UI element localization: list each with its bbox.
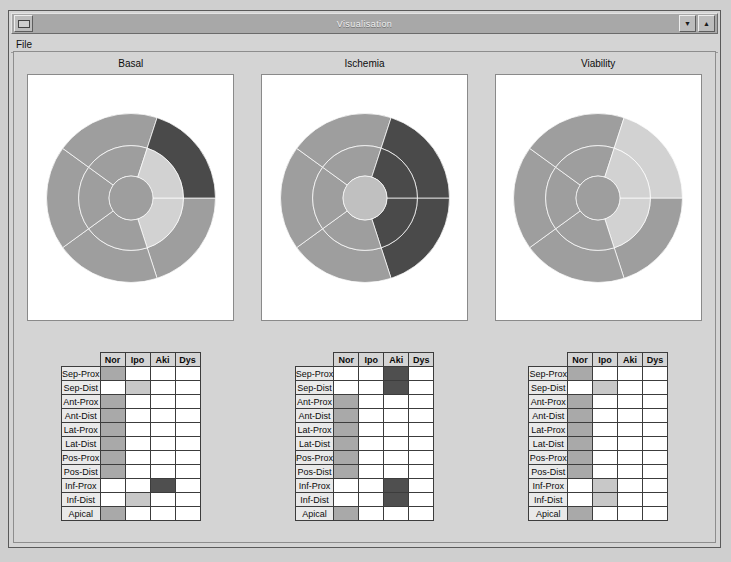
cell-ant-dist-nor[interactable] bbox=[100, 409, 125, 423]
cell-inf-dist-nor[interactable] bbox=[567, 493, 592, 507]
cell-inf-prox-aki[interactable] bbox=[617, 479, 642, 493]
cell-inf-dist-dys[interactable] bbox=[409, 493, 434, 507]
cell-sep-dist-dys[interactable] bbox=[642, 381, 667, 395]
cell-sep-prox-aki[interactable] bbox=[617, 367, 642, 381]
cell-lat-prox-aki[interactable] bbox=[617, 423, 642, 437]
minimize-button[interactable]: ▼ bbox=[679, 15, 696, 32]
cell-lat-dist-ipo[interactable] bbox=[592, 437, 617, 451]
cell-sep-dist-ipo[interactable] bbox=[592, 381, 617, 395]
cell-inf-dist-aki[interactable] bbox=[150, 493, 175, 507]
cell-pos-prox-aki[interactable] bbox=[150, 451, 175, 465]
cell-ant-prox-nor[interactable] bbox=[100, 395, 125, 409]
cell-lat-dist-dys[interactable] bbox=[642, 437, 667, 451]
cell-sep-prox-dys[interactable] bbox=[175, 367, 200, 381]
cell-sep-prox-nor[interactable] bbox=[100, 367, 125, 381]
cell-apical-dys[interactable] bbox=[642, 507, 667, 521]
cell-apical-nor[interactable] bbox=[334, 507, 359, 521]
segment-table-basal[interactable]: NorIpoAkiDysSep-ProxSep-DistAnt-ProxAnt-… bbox=[61, 352, 201, 521]
cell-pos-dist-dys[interactable] bbox=[175, 465, 200, 479]
bullseye-chart-ischemia[interactable] bbox=[277, 110, 453, 286]
cell-pos-prox-ipo[interactable] bbox=[592, 451, 617, 465]
cell-ant-prox-ipo[interactable] bbox=[592, 395, 617, 409]
cell-pos-dist-nor[interactable] bbox=[334, 465, 359, 479]
cell-sep-dist-dys[interactable] bbox=[409, 381, 434, 395]
cell-inf-prox-dys[interactable] bbox=[175, 479, 200, 493]
cell-lat-dist-ipo[interactable] bbox=[125, 437, 150, 451]
cell-ant-dist-nor[interactable] bbox=[334, 409, 359, 423]
cell-ant-dist-aki[interactable] bbox=[150, 409, 175, 423]
cell-sep-dist-aki[interactable] bbox=[384, 381, 409, 395]
cell-inf-dist-dys[interactable] bbox=[175, 493, 200, 507]
cell-pos-dist-ipo[interactable] bbox=[125, 465, 150, 479]
cell-inf-prox-aki[interactable] bbox=[384, 479, 409, 493]
cell-apical-nor[interactable] bbox=[100, 507, 125, 521]
cell-lat-prox-dys[interactable] bbox=[175, 423, 200, 437]
cell-sep-prox-ipo[interactable] bbox=[592, 367, 617, 381]
maximize-button[interactable]: ▲ bbox=[698, 15, 715, 32]
cell-lat-dist-dys[interactable] bbox=[175, 437, 200, 451]
cell-pos-prox-dys[interactable] bbox=[642, 451, 667, 465]
cell-pos-dist-ipo[interactable] bbox=[359, 465, 384, 479]
cell-ant-dist-aki[interactable] bbox=[617, 409, 642, 423]
cell-ant-prox-nor[interactable] bbox=[567, 395, 592, 409]
cell-apical-nor[interactable] bbox=[567, 507, 592, 521]
bullseye-segment-apical[interactable] bbox=[109, 176, 153, 220]
cell-inf-prox-ipo[interactable] bbox=[592, 479, 617, 493]
cell-pos-prox-ipo[interactable] bbox=[125, 451, 150, 465]
cell-ant-dist-dys[interactable] bbox=[409, 409, 434, 423]
cell-ant-prox-aki[interactable] bbox=[150, 395, 175, 409]
cell-ant-prox-ipo[interactable] bbox=[359, 395, 384, 409]
cell-sep-prox-ipo[interactable] bbox=[359, 367, 384, 381]
cell-lat-dist-nor[interactable] bbox=[100, 437, 125, 451]
cell-inf-prox-ipo[interactable] bbox=[359, 479, 384, 493]
cell-pos-prox-nor[interactable] bbox=[334, 451, 359, 465]
cell-pos-dist-aki[interactable] bbox=[384, 465, 409, 479]
bullseye-chart-viability[interactable] bbox=[510, 110, 686, 286]
cell-lat-prox-aki[interactable] bbox=[384, 423, 409, 437]
bullseye-panel-basal[interactable] bbox=[27, 74, 234, 321]
cell-apical-dys[interactable] bbox=[175, 507, 200, 521]
cell-inf-prox-aki[interactable] bbox=[150, 479, 175, 493]
cell-lat-prox-nor[interactable] bbox=[100, 423, 125, 437]
cell-apical-ipo[interactable] bbox=[359, 507, 384, 521]
cell-sep-prox-dys[interactable] bbox=[409, 367, 434, 381]
cell-lat-dist-nor[interactable] bbox=[567, 437, 592, 451]
segment-table-viability[interactable]: NorIpoAkiDysSep-ProxSep-DistAnt-ProxAnt-… bbox=[528, 352, 668, 521]
cell-sep-dist-nor[interactable] bbox=[334, 381, 359, 395]
cell-ant-prox-nor[interactable] bbox=[334, 395, 359, 409]
cell-lat-prox-dys[interactable] bbox=[409, 423, 434, 437]
cell-inf-dist-nor[interactable] bbox=[334, 493, 359, 507]
cell-inf-dist-aki[interactable] bbox=[384, 493, 409, 507]
title-bar[interactable]: Visualisation ▼ ▲ bbox=[11, 13, 718, 34]
cell-lat-dist-ipo[interactable] bbox=[359, 437, 384, 451]
cell-sep-dist-ipo[interactable] bbox=[359, 381, 384, 395]
cell-sep-prox-aki[interactable] bbox=[384, 367, 409, 381]
system-menu-icon[interactable] bbox=[14, 15, 33, 32]
cell-pos-prox-aki[interactable] bbox=[384, 451, 409, 465]
cell-lat-dist-aki[interactable] bbox=[150, 437, 175, 451]
cell-ant-prox-aki[interactable] bbox=[384, 395, 409, 409]
cell-lat-prox-nor[interactable] bbox=[334, 423, 359, 437]
cell-pos-dist-nor[interactable] bbox=[100, 465, 125, 479]
cell-lat-prox-ipo[interactable] bbox=[592, 423, 617, 437]
cell-pos-prox-dys[interactable] bbox=[409, 451, 434, 465]
cell-inf-dist-ipo[interactable] bbox=[359, 493, 384, 507]
cell-sep-prox-nor[interactable] bbox=[567, 367, 592, 381]
cell-lat-prox-ipo[interactable] bbox=[125, 423, 150, 437]
menu-item-file[interactable]: File bbox=[11, 37, 37, 52]
cell-apical-ipo[interactable] bbox=[125, 507, 150, 521]
bullseye-segment-apical[interactable] bbox=[343, 176, 387, 220]
segment-table-ischemia[interactable]: NorIpoAkiDysSep-ProxSep-DistAnt-ProxAnt-… bbox=[295, 352, 435, 521]
cell-pos-dist-ipo[interactable] bbox=[592, 465, 617, 479]
cell-pos-dist-nor[interactable] bbox=[567, 465, 592, 479]
cell-pos-dist-dys[interactable] bbox=[409, 465, 434, 479]
cell-ant-prox-dys[interactable] bbox=[175, 395, 200, 409]
cell-lat-prox-dys[interactable] bbox=[642, 423, 667, 437]
cell-ant-prox-dys[interactable] bbox=[642, 395, 667, 409]
cell-pos-prox-aki[interactable] bbox=[617, 451, 642, 465]
cell-inf-dist-aki[interactable] bbox=[617, 493, 642, 507]
cell-apical-ipo[interactable] bbox=[592, 507, 617, 521]
cell-lat-dist-dys[interactable] bbox=[409, 437, 434, 451]
cell-inf-prox-dys[interactable] bbox=[642, 479, 667, 493]
cell-ant-dist-ipo[interactable] bbox=[592, 409, 617, 423]
